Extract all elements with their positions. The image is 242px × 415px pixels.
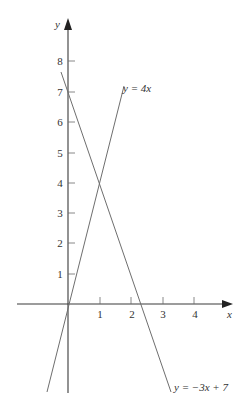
x-axis-label: x [226,308,232,320]
y-tick-label: 7 [57,86,63,98]
x-axis-arrow-icon [222,300,233,308]
y-tick-label: 4 [57,177,63,189]
y-tick-label: 1 [57,268,63,280]
x-tick-label: 3 [160,308,166,320]
y-axis-arrow-icon [64,18,72,30]
chart-canvas: 1 2 3 4 1 2 3 4 5 6 7 8 x y y = 4x y = −… [0,0,242,415]
line-y-equals-neg3x-plus-7 [61,72,171,392]
y-tick-label: 3 [57,207,63,219]
x-ticks [100,297,194,304]
y-tick-label: 8 [57,55,63,67]
y-axis-label: y [54,18,60,30]
y-tick-label: 6 [57,116,63,128]
line-label-4x: y = 4x [122,82,151,94]
y-tick-label: 5 [57,147,63,159]
x-tick-label: 4 [192,308,198,320]
y-ticks [68,61,75,274]
x-tick-label: 1 [97,308,103,320]
line-label-neg3x-plus-7: y = −3x + 7 [173,381,229,393]
x-tick-label: 2 [129,308,135,320]
y-tick-label: 2 [57,237,63,249]
